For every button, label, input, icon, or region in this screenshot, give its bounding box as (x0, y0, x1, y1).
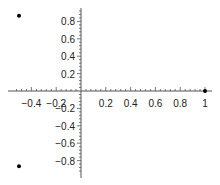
x-tick-label: 0.2 (99, 98, 113, 109)
data-point (203, 89, 207, 93)
y-tick-label: 0.8 (61, 16, 75, 27)
y-tick-label: −0.2 (55, 103, 75, 114)
y-tick-label: 0.2 (61, 69, 75, 80)
y-tick-label: −0.4 (55, 121, 75, 132)
y-tick-label: 0.4 (61, 51, 75, 62)
x-tick-label: −0.4 (22, 98, 42, 109)
y-tick-label: 0.6 (61, 34, 75, 45)
y-tick-label: −0.6 (55, 138, 75, 149)
data-point (17, 164, 21, 168)
y-tick-labels: 0.80.60.40.2−0.2−0.4−0.6−0.8 (55, 16, 75, 166)
axes (8, 8, 212, 178)
x-tick-label: 1 (202, 98, 208, 109)
x-tick-label: 0.6 (148, 98, 162, 109)
x-tick-label: 0.4 (124, 98, 138, 109)
data-point (17, 14, 21, 18)
y-tick-label: −0.8 (55, 156, 75, 167)
x-tick-label: 0.8 (173, 98, 187, 109)
scatter-plot: −0.4−0.20.20.40.60.81 0.80.60.40.2−0.2−0… (0, 0, 220, 185)
x-tick-labels: −0.4−0.20.20.40.60.81 (22, 98, 209, 109)
